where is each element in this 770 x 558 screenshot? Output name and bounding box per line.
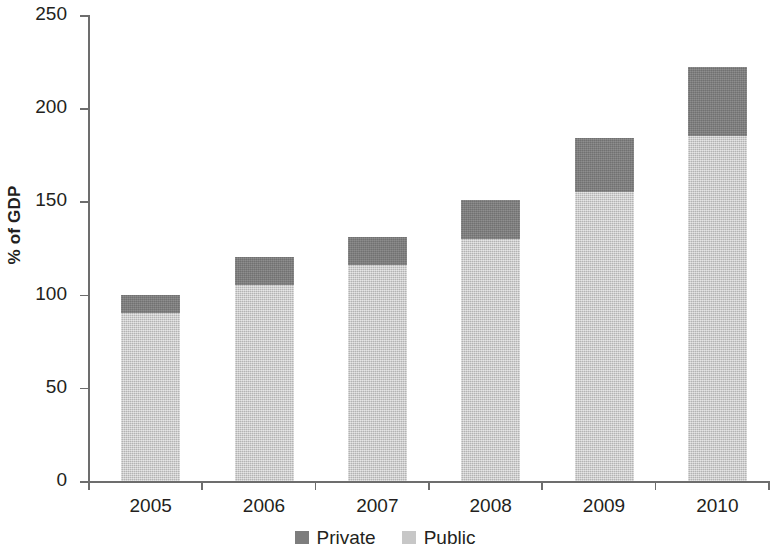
y-tick: 250 (80, 15, 88, 17)
bar-segment-public (688, 136, 747, 481)
x-tick (201, 481, 203, 490)
bar-group (688, 67, 747, 481)
legend-item: Private (295, 528, 376, 547)
y-tick: 200 (80, 108, 88, 110)
bar-segment-private (235, 257, 294, 285)
bar-group (575, 138, 634, 481)
legend-item: Public (402, 528, 476, 547)
x-tick (655, 481, 657, 490)
bar-segment-private (461, 200, 520, 239)
bar-segment-private (121, 295, 180, 314)
y-tick-label: 250 (35, 3, 67, 25)
x-tick-label: 2006 (214, 495, 314, 517)
y-tick-label: 150 (35, 189, 67, 211)
x-tick-label: 2009 (554, 495, 654, 517)
x-tick-label: 2005 (101, 495, 201, 517)
y-axis-title: % of GDP (5, 175, 25, 275)
legend-label: Public (424, 528, 476, 547)
bar-group (461, 200, 520, 481)
y-tick: 50 (80, 388, 88, 390)
x-tick-label: 2007 (327, 495, 427, 517)
y-tick: 100 (80, 295, 88, 297)
bar-segment-private (575, 138, 634, 192)
bar-segment-public (235, 285, 294, 481)
plot-area: 250200150100500 200520062007200820092010 (88, 15, 768, 481)
bar-segment-public (121, 313, 180, 481)
x-tick (88, 481, 90, 490)
chart-legend: PrivatePublic (0, 528, 770, 547)
bar-group (348, 237, 407, 481)
bar-segment-public (575, 192, 634, 481)
bar-group (235, 257, 294, 481)
y-tick: 0 (80, 481, 88, 483)
x-tick (541, 481, 543, 490)
bar-segment-public (348, 265, 407, 481)
x-tick (428, 481, 430, 490)
bar-segment-private (348, 237, 407, 265)
y-tick-label: 100 (35, 283, 67, 305)
bar-segment-public (461, 239, 520, 481)
y-axis-line (88, 15, 90, 482)
y-tick-label: 200 (35, 96, 67, 118)
legend-swatch-icon (402, 531, 416, 544)
x-tick (768, 481, 770, 490)
x-tick-label: 2010 (667, 495, 767, 517)
stacked-bar-chart: % of GDP 250200150100500 200520062007200… (0, 0, 770, 558)
x-tick (315, 481, 317, 490)
bar-group (121, 295, 180, 481)
y-tick: 150 (80, 201, 88, 203)
x-tick-label: 2008 (441, 495, 541, 517)
legend-swatch-icon (295, 531, 309, 544)
y-tick-label: 0 (56, 469, 67, 491)
y-tick-label: 50 (46, 376, 67, 398)
legend-label: Private (317, 528, 376, 547)
bar-segment-private (688, 67, 747, 136)
